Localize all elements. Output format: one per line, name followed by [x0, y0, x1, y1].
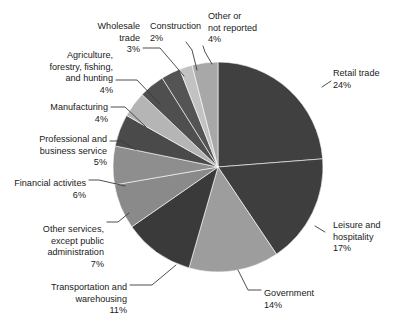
pie-slices-group — [113, 62, 323, 272]
slice-label-government: Government14% — [264, 288, 315, 310]
slice-label-transportation-and-warehousing: Transportation andwarehousing11% — [51, 282, 127, 315]
slice-label-retail-trade: Retail trade24% — [333, 68, 380, 90]
leader-line-leisure-and-hospitality — [315, 226, 325, 232]
slice-label-other-or-not-reported: Other ornot reported4% — [208, 11, 257, 44]
pie-slice-retail-trade — [218, 62, 323, 167]
leader-line-retail-trade — [322, 81, 331, 87]
slice-label-construction: Construction2% — [150, 21, 201, 43]
slice-label-agriculture-forestry-fishing-and-hunting: Agriculture,forestry, fishing,and huntin… — [49, 50, 113, 95]
slice-label-financial-activites: Financial activites6% — [14, 178, 86, 200]
slice-label-leisure-and-hospitality: Leisure andhospitality17% — [333, 220, 381, 253]
slice-label-manufacturing: Manufacturing4% — [50, 102, 108, 124]
slice-label-other-services-except-public-administration: Other services,except publicadministrati… — [43, 224, 105, 269]
leader-line-transportation-and-warehousing — [130, 265, 176, 285]
pie-chart-figure: Retail trade24%Leisure andhospitality17%… — [0, 0, 395, 329]
pie-chart-canvas: Retail trade24%Leisure andhospitality17%… — [0, 0, 395, 329]
leader-line-government — [238, 270, 261, 290]
slice-label-professional-and-business-service: Professional andbusiness service5% — [39, 134, 107, 167]
leader-line-other-or-not-reported — [203, 46, 212, 64]
